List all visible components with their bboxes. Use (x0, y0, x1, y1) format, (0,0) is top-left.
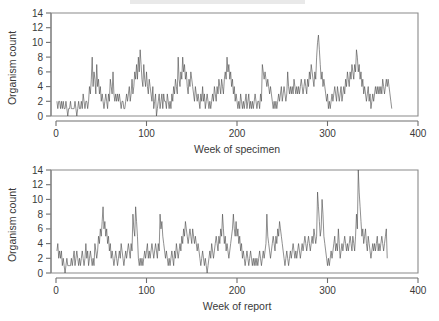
report-ytick-label-10: 10 (32, 194, 44, 205)
report-xtick-label-100: 100 (138, 285, 155, 296)
report-ytick-label-2: 2 (37, 253, 43, 264)
report-ytick-label-0: 0 (37, 268, 43, 279)
report-xtick-label-0: 0 (53, 285, 59, 296)
report-ytick-label-6: 6 (37, 223, 43, 234)
specimen-ytick-label-12: 12 (32, 22, 44, 33)
report-xtick-label-300: 300 (319, 285, 336, 296)
specimen-ytick-label-14: 14 (32, 8, 44, 19)
report-x-axis-label: Week of report (203, 300, 272, 312)
specimen-xtick-label-0: 0 (53, 128, 59, 139)
specimen-xtick-label-100: 100 (138, 128, 155, 139)
specimen-ytick-label-4: 4 (37, 81, 43, 92)
specimen-xtick-label-300: 300 (319, 128, 336, 139)
report-ytick-label-14: 14 (32, 165, 44, 176)
specimen-ytick-label-10: 10 (32, 37, 44, 48)
report-ytick-label-8: 8 (37, 209, 43, 220)
specimen-xtick-label-400: 400 (410, 128, 427, 139)
figure-root: Organism count 0 2 4 6 8 10 12 14 0 100 … (0, 0, 439, 321)
report-y-axis-label: Organism count (6, 188, 18, 262)
specimen-ytick-label-0: 0 (37, 111, 43, 122)
report-ytick-label-12: 12 (32, 179, 44, 190)
report-ytick-label-4: 4 (37, 238, 43, 249)
specimen-x-axis-label: Week of specimen (194, 143, 280, 155)
report-xtick-label-400: 400 (410, 285, 427, 296)
specimen-y-axis-label: Organism count (6, 31, 18, 105)
top-edge-artifact (130, 0, 305, 4)
specimen-xtick-label-200: 200 (229, 128, 246, 139)
specimen-ytick-label-6: 6 (37, 66, 43, 77)
specimen-ytick-label-8: 8 (37, 52, 43, 63)
specimen-ytick-label-2: 2 (37, 96, 43, 107)
report-xtick-label-200: 200 (229, 285, 246, 296)
